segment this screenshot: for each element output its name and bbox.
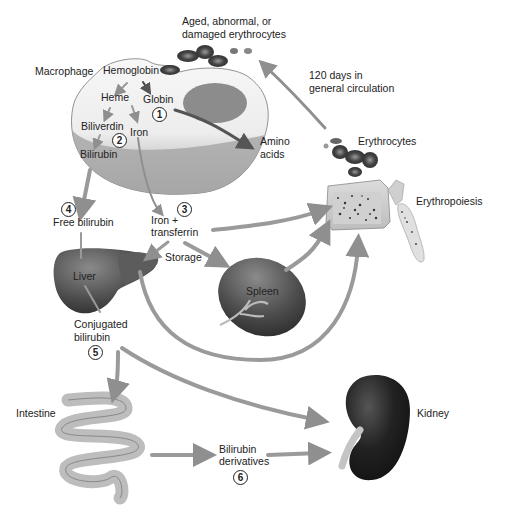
label-erythrocytes: Erythrocytes	[358, 135, 416, 147]
label-kidney: Kidney	[417, 407, 449, 419]
label-circulation-1: 120 days in	[309, 69, 363, 81]
label-iron-transferrin-1: Iron +	[151, 214, 178, 226]
kidney-illustration	[342, 375, 410, 480]
label-heme: Heme	[101, 91, 129, 103]
label-iron: Iron	[130, 126, 148, 138]
label-macrophage: Macrophage	[35, 65, 93, 77]
label-bilirubin-derivatives-1: Bilirubin	[219, 443, 256, 455]
label-aged-erythrocytes-1: Aged, abnormal, or	[182, 15, 271, 27]
label-bilirubin-derivatives-2: derivatives	[219, 455, 269, 467]
label-spleen: Spleen	[246, 285, 279, 297]
label-aged-erythrocytes-2: damaged erythrocytes	[182, 28, 286, 40]
step-1-badge: 1	[152, 107, 167, 122]
label-storage: Storage	[165, 251, 202, 263]
bone-marrow-illustration	[326, 180, 424, 262]
label-hemoglobin: Hemoglobin	[103, 64, 159, 76]
label-conjugated-bilirubin-1: Conjugated	[74, 318, 128, 330]
label-biliverdin: Biliverdin	[81, 120, 124, 132]
label-liver: Liver	[73, 270, 96, 282]
label-iron-transferrin-2: transferrin	[151, 226, 198, 238]
step-5-badge: 5	[88, 345, 103, 360]
label-erythropoiesis: Erythropoiesis	[416, 195, 483, 207]
step-3-badge: 3	[177, 202, 192, 217]
label-amino-acids-2: acids	[260, 148, 285, 160]
label-circulation-2: general circulation	[309, 82, 394, 94]
label-amino-acids-1: Amino	[260, 135, 290, 147]
step-4-badge: 4	[61, 202, 76, 217]
label-free-bilirubin: Free bilirubin	[53, 216, 114, 228]
step-6-badge: 6	[233, 470, 248, 485]
label-conjugated-bilirubin-2: bilirubin	[74, 331, 110, 343]
intestine-illustration	[62, 398, 139, 498]
label-globin: Globin	[143, 93, 173, 105]
label-intestine: Intestine	[16, 407, 56, 419]
step-2-badge: 2	[112, 133, 127, 148]
label-bilirubin: Bilirubin	[80, 148, 117, 160]
